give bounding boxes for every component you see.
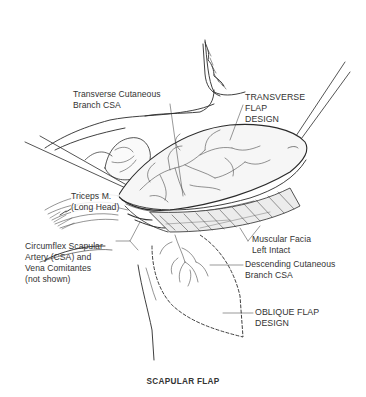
anatomical-illustration: [0, 0, 366, 397]
figure-caption: SCAPULAR FLAP: [0, 377, 366, 386]
oblique-flap-outline: [152, 235, 243, 337]
label-circumflex-scapular-artery: Circumflex Scapular Artery (CSA) and Ven…: [25, 241, 103, 285]
label-descending-cutaneous-branch: Descending Cutaneous Branch CSA: [245, 259, 335, 281]
label-oblique-flap-design: OBLIQUE FLAP DESIGN: [255, 307, 319, 329]
label-transverse-flap-design: TRANSVERSE FLAP DESIGN: [245, 92, 305, 125]
label-transverse-cutaneous-branch: Transverse Cutaneous Branch CSA: [73, 89, 161, 111]
label-muscular-facia: Muscular Facia Left Intact: [252, 234, 311, 256]
label-triceps-long-head: Triceps M. (Long Head): [71, 191, 119, 213]
scapular-flap-diagram: Transverse Cutaneous Branch CSA TRANSVER…: [0, 0, 366, 397]
descending-cutaneous-branch-vessels: [160, 235, 208, 286]
